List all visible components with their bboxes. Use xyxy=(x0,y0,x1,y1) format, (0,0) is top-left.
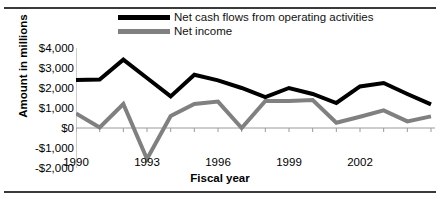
y-axis-tick-label: $0 xyxy=(61,122,74,134)
y-axis-tick-labels: $4,000$3,000$2,000$1,000$0-$1,000-$2,000 xyxy=(0,44,74,164)
bottom-divider-rule xyxy=(4,191,436,193)
x-axis-tick-label: 1993 xyxy=(134,156,160,168)
plot-area xyxy=(76,44,431,164)
legend-swatch-net-cash-flows xyxy=(118,15,170,20)
y-axis-tick-label: $2,000 xyxy=(39,82,74,94)
y-axis-tick-label: $1,000 xyxy=(39,102,74,114)
y-axis-tick-label: $4,000 xyxy=(39,42,74,54)
x-axis-tick-label: 1990 xyxy=(63,156,89,168)
x-axis-tick-label: 1996 xyxy=(205,156,231,168)
top-divider-rule xyxy=(4,7,436,9)
x-axis-tick-labels: 19901993199619992002 xyxy=(76,156,431,172)
y-axis-tick-label: $3,000 xyxy=(39,62,74,74)
legend-label-net-cash-flows: Net cash flows from operating activities xyxy=(174,11,373,23)
legend-item-net-cash-flows: Net cash flows from operating activities xyxy=(118,11,373,23)
legend-item-net-income: Net income xyxy=(118,25,373,37)
chart-figure: Net cash flows from operating activities… xyxy=(0,0,440,204)
x-axis-tick-label: 2002 xyxy=(347,156,373,168)
x-axis-title: Fiscal year xyxy=(0,172,440,184)
chart-legend: Net cash flows from operating activities… xyxy=(118,11,373,37)
chart-canvas xyxy=(76,44,439,172)
series-line-net-cash-flows xyxy=(76,60,431,105)
y-axis-tick-label: -$1,000 xyxy=(35,142,74,154)
series-line-net-income xyxy=(76,100,431,159)
x-axis-tick-label: 1999 xyxy=(276,156,302,168)
legend-swatch-net-income xyxy=(118,29,170,34)
legend-label-net-income: Net income xyxy=(174,25,232,37)
